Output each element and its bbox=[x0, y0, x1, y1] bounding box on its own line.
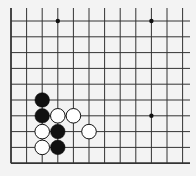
star-point-icon bbox=[149, 114, 153, 118]
white-stone[interactable] bbox=[35, 140, 50, 155]
white-stone[interactable] bbox=[82, 124, 97, 139]
black-stone[interactable] bbox=[35, 93, 50, 108]
white-stone[interactable] bbox=[35, 124, 50, 139]
black-stone[interactable] bbox=[51, 124, 66, 139]
go-board[interactable] bbox=[0, 0, 196, 176]
white-stone[interactable] bbox=[66, 109, 81, 124]
star-point-icon bbox=[149, 19, 153, 23]
white-stone[interactable] bbox=[51, 109, 66, 124]
stones-layer bbox=[35, 93, 96, 155]
board-grid bbox=[11, 8, 190, 163]
black-stone[interactable] bbox=[35, 109, 50, 124]
black-stone[interactable] bbox=[51, 140, 66, 155]
star-point-icon bbox=[56, 19, 60, 23]
